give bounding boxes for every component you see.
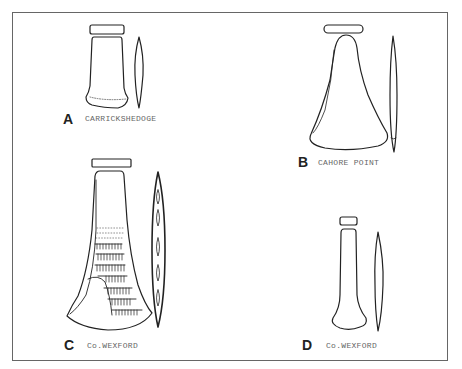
axe-c-side-cells <box>157 190 160 306</box>
axe-a <box>86 25 143 108</box>
axe-c-butt-section <box>92 159 131 167</box>
panel-a-letter: A <box>63 112 73 126</box>
axe-b-side-bevel <box>391 138 396 139</box>
axe-b <box>310 25 397 152</box>
panel-c-site-label: Co.WEXFORD <box>87 342 138 350</box>
axe-b-side-view <box>390 36 397 152</box>
axe-b-butt-section <box>324 25 363 33</box>
axe-d-side-view <box>375 232 383 331</box>
axe-c-broken-area <box>88 277 112 315</box>
axe-a-butt-section <box>90 25 124 34</box>
axe-c-face <box>67 171 152 330</box>
panel-b-letter: B <box>298 155 308 169</box>
axe-c <box>67 159 165 330</box>
axe-a-side-view <box>135 37 143 108</box>
axe-d <box>332 217 383 331</box>
panel-d-site-label: Co.WEXFORD <box>326 342 377 350</box>
panel-c-letter: C <box>64 338 74 352</box>
axe-c-facet <box>70 180 96 314</box>
axe-d-butt-section <box>340 217 357 225</box>
panel-a-site-label: CARRICKSHEDOGE <box>85 115 156 123</box>
panel-b-site-label: CAHORE POINT <box>318 159 379 167</box>
axe-b-face <box>310 35 388 150</box>
figure-plate: A CARRICKSHEDOGE B CAHORE POINT C Co.WEX… <box>0 0 462 369</box>
panel-d-letter: D <box>302 338 312 352</box>
axe-a-edge-wear <box>90 97 126 100</box>
axe-drawings <box>0 0 462 369</box>
axe-d-face <box>332 229 366 329</box>
